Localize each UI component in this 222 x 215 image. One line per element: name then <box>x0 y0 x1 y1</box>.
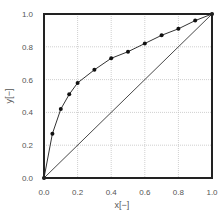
y-axis-label: y[−] <box>4 89 14 104</box>
data-point <box>67 92 71 96</box>
data-point <box>50 132 54 136</box>
y-tick-label: 0.2 <box>22 141 34 150</box>
x-tick-label: 0.0 <box>38 188 50 197</box>
x-tick-label: 0.8 <box>173 188 185 197</box>
y-tick-label: 0.4 <box>22 108 34 117</box>
x-axis-label: x[−] <box>115 200 130 210</box>
data-point <box>126 50 130 54</box>
x-tick-label: 0.6 <box>139 188 151 197</box>
data-point <box>109 56 113 60</box>
y-tick-label: 0.6 <box>22 76 34 85</box>
chart: 0.00.20.40.60.81.0 0.00.20.40.60.81.0 x[… <box>0 0 222 215</box>
data-point <box>143 42 147 46</box>
x-tick-labels: 0.00.20.40.60.81.0 <box>38 188 218 197</box>
x-tick-label: 0.4 <box>106 188 118 197</box>
data-point <box>92 68 96 72</box>
data-point <box>160 33 164 37</box>
data-point <box>176 27 180 31</box>
y-tick-label: 0.0 <box>22 174 34 183</box>
x-tick-label: 1.0 <box>206 188 218 197</box>
x-tick-label: 0.2 <box>72 188 84 197</box>
data-point <box>59 107 63 111</box>
data-point <box>76 81 80 85</box>
y-tick-label: 1.0 <box>22 10 34 19</box>
y-tick-labels: 0.00.20.40.60.81.0 <box>22 10 34 183</box>
y-tick-label: 0.8 <box>22 43 34 52</box>
data-point <box>193 19 197 23</box>
